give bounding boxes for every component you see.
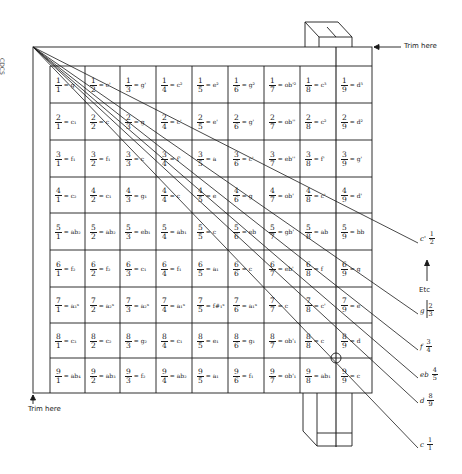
ratio-fraction: 26 — [233, 114, 240, 131]
note-equivalent: = g — [64, 82, 75, 88]
ratio-cell: 51= ab₂ — [55, 224, 81, 241]
ratio-fraction: 58 — [305, 224, 312, 241]
note-equivalent: = d — [350, 338, 361, 344]
note-equivalent: = f₂ — [64, 266, 76, 272]
note-equivalent: = eb'' — [278, 156, 296, 162]
ratio-fraction: 92 — [90, 368, 97, 385]
denominator: 3 — [428, 311, 432, 318]
ratio-fraction: 61 — [55, 261, 62, 278]
note-equivalent: = c₁ — [134, 266, 147, 272]
denominator: 2 — [91, 196, 96, 204]
denominator: 9 — [342, 306, 347, 314]
note-equivalent: = c — [170, 193, 180, 199]
note-equivalent: = eb₁ — [134, 229, 151, 235]
ratio-fraction: 21 — [55, 114, 62, 131]
note-equivalent: = a₃ˣ — [64, 303, 79, 309]
denominator: 9 — [342, 270, 347, 278]
denominator: 4 — [162, 270, 167, 278]
ratio-cell: 65= a₁ — [197, 261, 219, 278]
denominator: 3 — [126, 306, 131, 314]
note-equivalent: = ab₁ — [170, 229, 187, 235]
ratio-fraction: 27 — [269, 114, 276, 131]
note-equivalent: = d³ — [350, 82, 363, 88]
denominator: 2 — [91, 160, 96, 168]
denominator: 9 — [342, 196, 347, 204]
denominator: 5 — [198, 233, 203, 241]
ratio-cell: 12= c' — [90, 77, 111, 94]
ratio-cell: 49= d' — [341, 187, 362, 204]
denominator: 1 — [56, 196, 61, 204]
denominator: 1 — [56, 306, 61, 314]
note-equivalent: = e² — [206, 82, 219, 88]
ratio-cell: 64= f₁ — [161, 261, 181, 278]
ratio-fraction: 75 — [197, 297, 204, 314]
denominator: 8 — [306, 123, 311, 131]
ratio-fraction: 63 — [125, 261, 132, 278]
ratio-cell: 16= g² — [233, 77, 255, 94]
ratio-cell: 44= c — [161, 187, 180, 204]
ratio-fraction: 72 — [90, 297, 97, 314]
ratio-fraction: 16 — [233, 77, 240, 94]
denominator: 3 — [126, 123, 131, 131]
ratio-fraction: 12 — [429, 231, 435, 246]
ratio-fraction: 18 — [305, 77, 312, 94]
note-equivalent: = f#₁ˣ — [206, 303, 225, 309]
ratio-fraction: 52 — [90, 224, 97, 241]
ratio-cell: 36= c' — [233, 151, 254, 168]
ratio-cell: 79= e — [341, 297, 360, 314]
ratio-fraction: 78 — [305, 297, 312, 314]
note-equivalent: = c² — [170, 82, 183, 88]
note-name: c' — [420, 235, 426, 243]
ratio-fraction: 34 — [426, 339, 432, 354]
ratio-fraction: 33 — [125, 151, 132, 168]
ratio-cell: 19= d³ — [341, 77, 363, 94]
denominator: 5 — [198, 160, 203, 168]
ratio-fraction: 29 — [341, 114, 348, 131]
denominator: 5 — [198, 377, 203, 385]
ratio-fraction: 35 — [197, 151, 204, 168]
denominator: 9 — [342, 233, 347, 241]
ratio-cell: 26= g' — [233, 114, 254, 131]
note-equivalent: = ab₄ — [64, 373, 81, 379]
ratio-cell: 96= f₁ — [233, 368, 253, 385]
ratio-fraction: 67 — [269, 261, 276, 278]
ratio-fraction: 89 — [427, 393, 433, 408]
note-equivalent: = a₁ — [206, 266, 219, 272]
note-equivalent: = c — [134, 156, 144, 162]
denominator: 4 — [162, 160, 167, 168]
ratio-fraction: 64 — [161, 261, 168, 278]
denominator: 5 — [198, 86, 203, 94]
note-equivalent: = ob'₁ — [278, 338, 296, 344]
ratio-fraction: 44 — [161, 187, 168, 204]
ratio-cell: 76= a₁ˣ — [233, 297, 257, 314]
ratio-fraction: 34 — [161, 151, 168, 168]
ratio-cell: 66= c — [233, 261, 252, 278]
denominator: 6 — [234, 123, 239, 131]
ratio-cell: 22= c — [90, 114, 109, 131]
side-ratio-label: eb45 — [420, 367, 438, 382]
side-ratio-label: c'12 — [420, 231, 435, 246]
ratio-fraction: 97 — [269, 368, 276, 385]
ratio-fraction: 14 — [161, 77, 168, 94]
ratio-fraction: 22 — [90, 114, 97, 131]
note-equivalent: = ob'' — [278, 119, 296, 125]
ratio-cell: 47= ob' — [269, 187, 294, 204]
note-equivalent: = e — [350, 303, 361, 309]
note-equivalent: = c — [206, 229, 216, 235]
ratio-cell: 98= ab₁ — [305, 368, 331, 385]
ratio-cell: 77= c — [269, 297, 288, 314]
note-equivalent: = f₁ — [242, 373, 254, 379]
denominator: 2 — [91, 270, 96, 278]
denominator: 3 — [126, 233, 131, 241]
ratio-cell: 97= ob'₁ — [269, 368, 296, 385]
ratio-cell: 94= ab₂ — [161, 368, 187, 385]
denominator: 1 — [56, 233, 61, 241]
ratio-cell: 68= f — [305, 261, 323, 278]
ratio-cell: 11= g — [55, 77, 75, 94]
ratio-cell: 58= ab — [305, 224, 328, 241]
ratio-fraction: 11 — [427, 437, 433, 452]
note-equivalent: = c₃ — [64, 338, 77, 344]
note-equivalent: = c — [278, 303, 288, 309]
note-equivalent: = a₂ˣ — [99, 303, 114, 309]
note-equivalent: = f' — [170, 156, 181, 162]
